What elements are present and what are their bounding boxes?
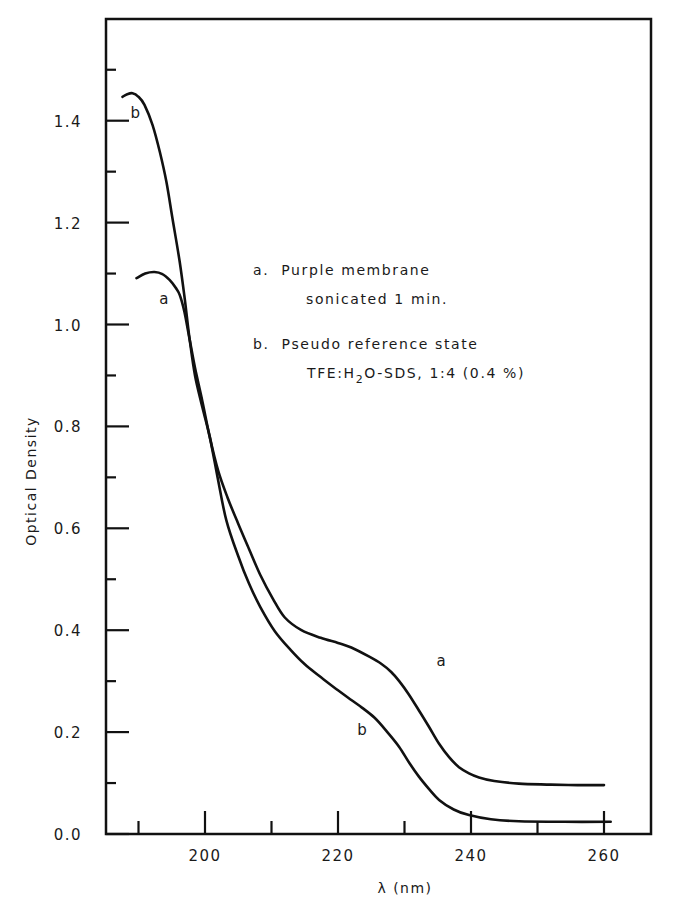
x-tick-label: 240 [454, 847, 487, 865]
y-tick-label: 1.4 [54, 113, 82, 131]
y-tick-label: 0.0 [54, 826, 82, 844]
legend-text-b-line2-suffix: O-SDS, 1:4 (0.4 %) [364, 365, 525, 381]
curve-label-a: a [436, 652, 445, 670]
y-tick-label: 0.8 [54, 418, 82, 436]
curves [123, 93, 611, 822]
legend-text-b-line2-prefix: TFE:H [306, 365, 356, 381]
curve-labels: aabb [130, 104, 445, 738]
y-axis-ticks [106, 70, 129, 834]
curve-b [123, 93, 611, 822]
legend-text-b-line2: TFE:H2O-SDS, 1:4 (0.4 %) [306, 365, 525, 386]
legend-text-b-line2-subscript: 2 [356, 373, 365, 386]
x-axis-tick-labels: 200220240260 [188, 847, 620, 865]
curve-label-b: b [357, 721, 367, 739]
legend-key-b: b. [253, 336, 270, 352]
y-tick-label: 0.2 [54, 724, 82, 742]
plot-frame [106, 19, 651, 834]
legend-entry-b: b. Pseudo reference state [253, 336, 478, 352]
curve-label-a: a [159, 290, 168, 308]
y-axis-title: Optical Density [23, 416, 39, 546]
y-tick-label: 0.4 [54, 622, 82, 640]
legend-key-a: a. [253, 262, 269, 278]
legend: a. Purple membrane sonicated 1 min. b. P… [253, 262, 525, 386]
optical-density-chart: 200220240260 0.00.20.40.60.81.01.21.4 aa… [0, 0, 675, 912]
x-tick-label: 200 [188, 847, 221, 865]
legend-text-a-line1: Purple membrane [281, 262, 430, 278]
x-tick-label: 260 [587, 847, 620, 865]
curve-label-b: b [130, 104, 140, 122]
x-axis-title: λ (nm) [377, 880, 432, 896]
y-tick-label: 1.0 [54, 317, 82, 335]
y-tick-label: 1.2 [54, 215, 82, 233]
x-tick-label: 220 [321, 847, 354, 865]
legend-entry-a: a. Purple membrane [253, 262, 431, 278]
legend-text-a-line2: sonicated 1 min. [306, 291, 448, 307]
y-axis-tick-labels: 0.00.20.40.60.81.01.21.4 [54, 113, 82, 844]
y-tick-label: 0.6 [54, 520, 82, 538]
legend-text-b-line1: Pseudo reference state [282, 336, 479, 352]
